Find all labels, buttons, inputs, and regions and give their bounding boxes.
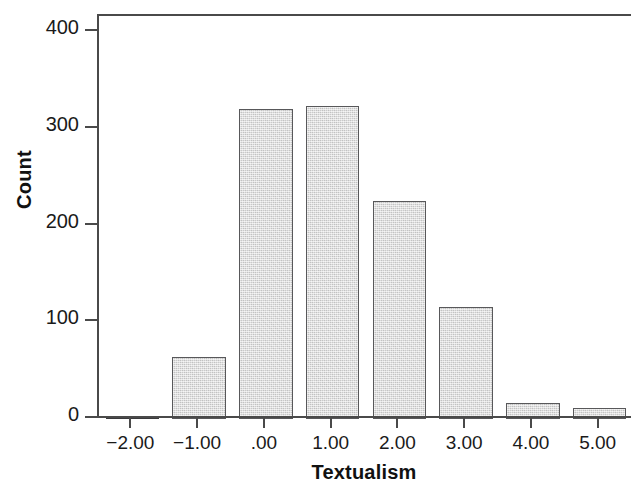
plot-area [97, 14, 631, 417]
y-tick-label-100: 100 [27, 306, 79, 329]
x-tick-.00 [263, 417, 265, 428]
bar-1.00 [306, 106, 359, 419]
bar-2.00 [373, 201, 426, 419]
x-tick-5.00 [597, 417, 599, 428]
x-tick-3.00 [463, 417, 465, 428]
y-tick-0 [85, 416, 97, 418]
x-tick-1.00 [330, 417, 332, 428]
x-tick-4.00 [530, 417, 532, 428]
bar-3.00 [439, 307, 492, 419]
y-tick-label-400: 400 [27, 16, 79, 39]
x-tick--1.00 [196, 417, 198, 428]
y-tick-label-300: 300 [27, 113, 79, 136]
y-tick-label-0: 0 [27, 403, 79, 426]
x-axis-line [97, 416, 631, 418]
bar-.00 [239, 109, 292, 419]
x-tick-2.00 [396, 417, 398, 428]
y-tick-400 [85, 29, 97, 31]
x-axis-title: Textualism [97, 461, 631, 484]
y-tick-200 [85, 223, 97, 225]
histogram-figure: Count 0100200300400 −2.00−1.00.001.002.0… [0, 0, 631, 491]
bar--1.00 [172, 357, 225, 419]
y-tick-label-200: 200 [27, 210, 79, 233]
x-tick--2.00 [129, 417, 131, 428]
y-tick-100 [85, 319, 97, 321]
x-tick-label-5.00: 5.00 [558, 432, 631, 454]
y-tick-300 [85, 126, 97, 128]
